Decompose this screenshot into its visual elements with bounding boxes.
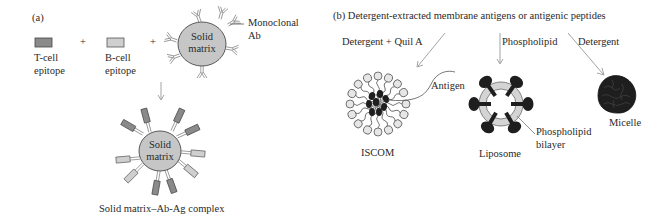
route-label-quil: Detergent + Quil A [342,36,423,49]
monoclonal-ab-label: Monoclonal Ab [248,17,299,42]
phospholipid-bilayer-label: Phospholipid bilayer [536,126,591,151]
antigen-label: Antigen [431,80,465,93]
panel-b-title: (b) Detergent-extracted membrane antigen… [333,10,606,23]
liposome-icon [469,73,534,135]
b-cell-epitope-label: B-cell epitope [105,52,136,77]
micelle-icon [598,76,636,113]
t-cell-epitope-label: T-cell epitope [34,52,65,77]
micelle-caption: Micelle [609,117,641,130]
plus-sign: + [80,36,86,49]
complex-caption: Solid matrix–Ab-Ag complex [99,203,224,216]
liposome-caption: Liposome [479,148,521,161]
figure-canvas [0,0,670,224]
solid-matrix-bottom-label: Solid matrix [140,139,180,163]
iscom-icon [346,72,410,136]
plus-sign: + [150,36,156,49]
solid-matrix-top-label: Solid matrix [182,31,222,55]
route-label-phospholipid: Phospholipid [502,36,557,49]
iscom-caption: ISCOM [361,147,394,160]
b-cell-epitope-icon [107,38,124,47]
t-cell-epitope-icon [35,38,52,47]
arrow-down-icon [158,82,164,100]
route-label-detergent: Detergent [578,36,619,49]
panel-a-label: (a) [32,12,44,25]
